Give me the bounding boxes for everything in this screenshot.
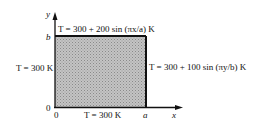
y-axis-arrow-icon [53, 12, 58, 20]
left-boundary-condition: T = 300 K [16, 64, 53, 73]
x-end-label: a [143, 111, 148, 120]
y-end-label: b [46, 33, 51, 42]
y-axis-label: y [46, 10, 50, 19]
right-boundary-condition: T = 300 + 100 sin (πy/b) K [149, 63, 246, 72]
bottom-boundary-condition: T = 300 K [84, 111, 121, 120]
origin-y-label: 0 [46, 104, 51, 113]
plate-region [55, 36, 146, 107]
x-axis-arrow-icon [175, 105, 183, 110]
top-boundary-condition: T = 300 + 200 sin (πx/a) K [58, 25, 155, 34]
origin-x-label: 0 [54, 111, 59, 120]
x-axis-label: x [172, 111, 176, 120]
